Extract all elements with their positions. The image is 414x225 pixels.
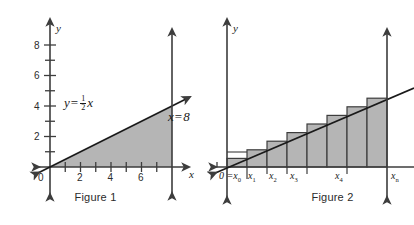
riemann-rect-1 [227,158,247,167]
equation-equals: = [70,95,79,110]
x-partition-label-1: x1 [248,170,256,183]
figures-container: y x 0 2 4 6 2 4 6 8 y=12x x=8 Figure 1 [0,0,414,225]
vline-rhs: 8 [183,109,190,124]
figure-1-vertical-line-label: x=8 [168,110,190,123]
x-tick-label-2: 2 [77,172,83,183]
x-partition-label-2: x2 [269,170,277,183]
partition-sub: 3 [294,176,297,183]
vline-equals: = [174,109,183,124]
fraction-denominator: 2 [80,103,86,112]
figure-1-y-axis-letter: y [56,22,61,34]
partition-sub: 0 [238,176,241,183]
figure-2-y-axis-letter: y [233,22,238,34]
riemann-rect-3 [267,141,287,167]
figure-2-panel: y △x y=12x x= 0 =x0 x1 x2 x3 x4 xn Figu [207,0,414,225]
x-tick-label-4: 4 [108,172,114,183]
partition-prefix: 0 = [219,170,233,181]
figure-1-panel: y x 0 2 4 6 2 4 6 8 y=12x x=8 Figure 1 [0,0,207,225]
figure-1-caption: Figure 1 [0,191,199,203]
x-partition-label-0: 0 =x0 [219,170,241,183]
vline-lhs: x [168,109,174,124]
y-tick-label-4: 4 [34,101,40,112]
y-tick-label-2: 2 [34,131,40,142]
y-tick-label-8: 8 [34,40,40,51]
figure-2-caption: Figure 2 [229,191,414,203]
partition-sub: n [395,176,398,183]
partition-sub: 1 [252,176,255,183]
figure-1-x-axis-letter: x [189,168,194,180]
x-partition-label-3: x3 [290,170,298,183]
partition-sub: 2 [273,176,276,183]
equation-variable: x [87,95,93,110]
riemann-rect-5 [307,124,327,167]
figure-1-equation-label: y=12x [64,95,93,112]
fraction-numerator: 1 [80,95,86,103]
riemann-rectangles [227,98,387,167]
partition-sub: 4 [339,176,342,183]
x-tick-label-0: 0 [38,172,44,183]
y-tick-label-6: 6 [34,70,40,81]
x-tick-label-6: 6 [138,172,144,183]
equation-fraction: 12 [80,95,86,112]
x-partition-label-4: x4 [335,170,343,183]
x-partition-label-n: xn [391,170,399,183]
equation-lhs: y [64,95,70,110]
riemann-rect-8 [367,98,387,167]
